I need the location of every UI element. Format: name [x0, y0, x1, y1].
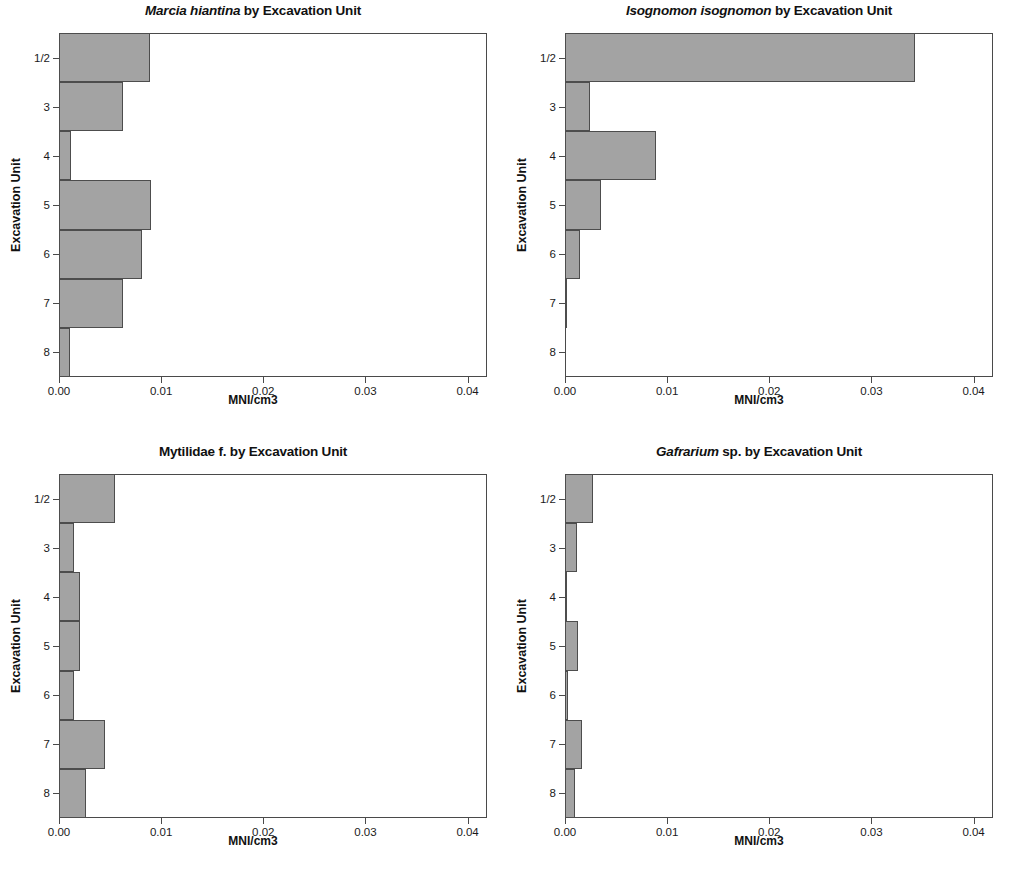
- chart-panel-3: Gafrarium sp. by Excavation UnitExcavati…: [506, 441, 1012, 882]
- y-axis-tick: [559, 254, 565, 255]
- bar: [59, 131, 71, 180]
- y-axis-tick-label: 8: [44, 346, 50, 358]
- y-axis-tick: [53, 793, 59, 794]
- y-axis-tick-label: 4: [550, 591, 556, 603]
- y-axis-tick: [559, 107, 565, 108]
- x-axis-tick: [769, 818, 770, 824]
- x-axis-tick: [365, 377, 366, 383]
- y-axis-tick: [53, 695, 59, 696]
- y-axis-tick-label: 6: [550, 689, 556, 701]
- bar: [565, 279, 567, 328]
- y-axis-title-text: Excavation Unit: [515, 158, 529, 252]
- plot-area: 1/23456780.000.010.020.030.04: [565, 33, 993, 377]
- x-axis-tick: [565, 818, 566, 824]
- x-axis-tick: [59, 377, 60, 383]
- y-axis-tick-label: 3: [550, 101, 556, 113]
- y-axis-tick-label: 5: [44, 199, 50, 211]
- y-axis-tick-label: 8: [550, 787, 556, 799]
- y-axis-tick: [559, 303, 565, 304]
- y-axis-tick: [53, 352, 59, 353]
- y-axis-tick-label: 5: [550, 640, 556, 652]
- x-axis-title: MNI/cm3: [0, 393, 506, 407]
- x-axis-tick: [667, 377, 668, 383]
- y-axis-tick-label: 4: [44, 150, 50, 162]
- x-axis-tick: [365, 818, 366, 824]
- bar: [59, 82, 123, 131]
- bar: [565, 131, 656, 180]
- chart-panel-0: Marcia hiantina by Excavation UnitExcava…: [0, 0, 506, 441]
- bar: [565, 33, 915, 82]
- y-axis-title: Excavation Unit: [514, 33, 530, 377]
- y-axis-tick: [53, 107, 59, 108]
- x-axis-tick: [974, 377, 975, 383]
- chart-panel-2: Mytilidae f. by Excavation UnitExcavatio…: [0, 441, 506, 882]
- y-axis-title-text: Excavation Unit: [9, 158, 23, 252]
- y-axis-tick-label: 3: [44, 542, 50, 554]
- bar: [565, 769, 575, 818]
- y-axis-tick: [559, 548, 565, 549]
- y-axis-tick-label: 3: [550, 542, 556, 554]
- plot-area: 1/23456780.000.010.020.030.04: [59, 474, 487, 818]
- y-axis-tick: [53, 499, 59, 500]
- y-axis-tick: [53, 254, 59, 255]
- bar: [565, 523, 577, 572]
- bar: [59, 769, 86, 818]
- y-axis-tick: [53, 744, 59, 745]
- x-axis-tick: [161, 818, 162, 824]
- bar: [59, 180, 151, 229]
- bar: [565, 720, 582, 769]
- y-axis-tick: [559, 499, 565, 500]
- bar: [565, 82, 590, 131]
- plot-frame: [59, 474, 487, 818]
- bar: [565, 230, 580, 279]
- bar: [59, 720, 105, 769]
- y-axis-tick-label: 6: [550, 248, 556, 260]
- y-axis-tick: [53, 646, 59, 647]
- y-axis-tick-label: 7: [44, 738, 50, 750]
- y-axis-tick-label: 7: [44, 297, 50, 309]
- y-axis-tick-label: 7: [550, 297, 556, 309]
- y-axis-tick-label: 6: [44, 689, 50, 701]
- y-axis-tick: [559, 646, 565, 647]
- plot-area: 1/23456780.000.010.020.030.04: [59, 33, 487, 377]
- y-axis-tick-label: 4: [550, 150, 556, 162]
- y-axis-tick-label: 1/2: [540, 52, 556, 64]
- x-axis-title: MNI/cm3: [506, 834, 1012, 848]
- chart-title-species: Isognomon isognomon: [626, 3, 771, 18]
- bar: [59, 523, 74, 572]
- y-axis-tick: [53, 303, 59, 304]
- chart-title-suffix: sp. by Excavation Unit: [719, 444, 862, 459]
- y-axis-tick: [559, 744, 565, 745]
- chart-title-species: Gafrarium: [656, 444, 719, 459]
- x-axis-tick: [263, 377, 264, 383]
- chart-title: Mytilidae f. by Excavation Unit: [0, 444, 506, 459]
- y-axis-title: Excavation Unit: [514, 474, 530, 818]
- x-axis-tick: [468, 818, 469, 824]
- x-axis-tick: [263, 818, 264, 824]
- chart-title-suffix: by Excavation Unit: [771, 3, 892, 18]
- y-axis-tick-label: 6: [44, 248, 50, 260]
- y-axis-tick: [53, 205, 59, 206]
- chart-title: Isognomon isognomon by Excavation Unit: [506, 3, 1012, 18]
- bar: [565, 180, 601, 229]
- bar: [59, 230, 142, 279]
- y-axis-tick-label: 5: [550, 199, 556, 211]
- bar: [59, 474, 115, 523]
- y-axis-title-text: Excavation Unit: [515, 599, 529, 693]
- y-axis-tick: [53, 597, 59, 598]
- y-axis-tick: [53, 156, 59, 157]
- bar: [59, 328, 70, 377]
- x-axis-tick: [871, 377, 872, 383]
- figure-grid: Marcia hiantina by Excavation UnitExcava…: [0, 0, 1012, 883]
- y-axis-tick-label: 3: [44, 101, 50, 113]
- x-axis-tick: [667, 818, 668, 824]
- bar: [59, 621, 80, 670]
- y-axis-tick: [559, 58, 565, 59]
- bar: [565, 572, 567, 621]
- y-axis-tick-label: 1/2: [540, 493, 556, 505]
- bar: [59, 572, 80, 621]
- y-axis-tick: [559, 597, 565, 598]
- y-axis-title: Excavation Unit: [8, 33, 24, 377]
- bar: [59, 33, 150, 82]
- y-axis-tick: [559, 205, 565, 206]
